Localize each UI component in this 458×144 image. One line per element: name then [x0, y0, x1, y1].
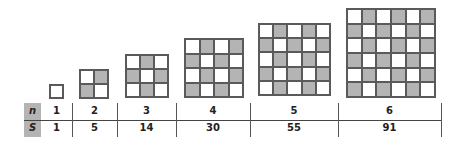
white-square — [302, 38, 316, 52]
shaded-square — [140, 55, 154, 69]
checkerboard-n4 — [184, 38, 244, 98]
white-square — [200, 83, 215, 98]
checkerboard-n6 — [346, 8, 436, 98]
n-value: 4 — [176, 105, 250, 116]
shaded-square — [273, 24, 287, 38]
shaded-square — [362, 68, 377, 83]
shaded-square — [316, 38, 330, 52]
white-square — [126, 55, 140, 69]
white-square — [362, 82, 377, 97]
white-square — [420, 24, 435, 39]
white-square — [347, 38, 362, 53]
white-square — [185, 39, 200, 54]
shaded-square — [420, 38, 435, 53]
shaded-square — [376, 53, 391, 68]
white-square — [287, 24, 301, 38]
white-square — [376, 38, 391, 53]
white-square — [200, 54, 215, 69]
white-square — [154, 83, 168, 97]
white-square — [94, 84, 108, 98]
shaded-square — [185, 83, 200, 98]
shaded-square — [126, 69, 140, 83]
n-row-label: n — [24, 105, 41, 116]
shaded-square — [94, 70, 108, 84]
shaded-square — [347, 82, 362, 97]
s-value: 55 — [250, 122, 338, 133]
white-square — [302, 67, 316, 81]
white-square — [80, 70, 94, 84]
white-square — [391, 24, 406, 39]
shaded-square — [347, 24, 362, 39]
n-value: 5 — [250, 105, 338, 116]
shaded-square — [80, 84, 94, 98]
white-square — [50, 85, 63, 98]
white-square — [273, 67, 287, 81]
white-square — [391, 82, 406, 97]
shaded-square — [362, 38, 377, 53]
white-square — [316, 81, 330, 95]
shaded-square — [376, 24, 391, 39]
row-divider — [24, 120, 441, 121]
white-square — [214, 68, 229, 83]
shaded-square — [273, 81, 287, 95]
white-square — [229, 83, 244, 98]
shaded-square — [316, 67, 330, 81]
shaded-square — [420, 68, 435, 83]
shaded-square — [302, 81, 316, 95]
white-square — [406, 68, 421, 83]
white-square — [229, 54, 244, 69]
n-value: 1 — [41, 105, 72, 116]
white-square — [259, 24, 273, 38]
shaded-square — [154, 69, 168, 83]
s-value: 14 — [117, 122, 176, 133]
shaded-square — [302, 24, 316, 38]
shaded-square — [376, 82, 391, 97]
shaded-square — [259, 67, 273, 81]
shaded-square — [406, 53, 421, 68]
shaded-square — [362, 9, 377, 24]
white-square — [362, 24, 377, 39]
white-square — [420, 53, 435, 68]
checkerboard-n5 — [258, 23, 331, 96]
s-value: 5 — [72, 122, 117, 133]
shaded-square — [391, 9, 406, 24]
shaded-square — [287, 67, 301, 81]
shaded-square — [200, 39, 215, 54]
shaded-square — [185, 54, 200, 69]
shaded-square — [214, 54, 229, 69]
shaded-square — [273, 52, 287, 66]
white-square — [391, 53, 406, 68]
s-value: 91 — [338, 122, 441, 133]
white-square — [259, 52, 273, 66]
white-square — [185, 68, 200, 83]
shaded-square — [391, 68, 406, 83]
n-value: 6 — [338, 105, 441, 116]
n-value: 2 — [72, 105, 117, 116]
white-square — [406, 9, 421, 24]
white-square — [287, 52, 301, 66]
shaded-square — [420, 9, 435, 24]
white-square — [362, 53, 377, 68]
white-square — [347, 9, 362, 24]
shaded-square — [229, 39, 244, 54]
white-square — [316, 24, 330, 38]
shaded-square — [229, 68, 244, 83]
white-square — [316, 52, 330, 66]
s-row-label: S — [24, 122, 41, 133]
shaded-square — [287, 38, 301, 52]
shaded-square — [200, 68, 215, 83]
white-square — [406, 38, 421, 53]
shaded-square — [214, 83, 229, 98]
shaded-square — [391, 38, 406, 53]
column-divider — [441, 103, 442, 137]
white-square — [259, 81, 273, 95]
white-square — [376, 9, 391, 24]
white-square — [154, 55, 168, 69]
white-square — [287, 81, 301, 95]
checkerboard-n2 — [79, 69, 109, 99]
shaded-square — [406, 24, 421, 39]
white-square — [126, 83, 140, 97]
shaded-square — [347, 53, 362, 68]
white-square — [214, 39, 229, 54]
white-square — [376, 68, 391, 83]
